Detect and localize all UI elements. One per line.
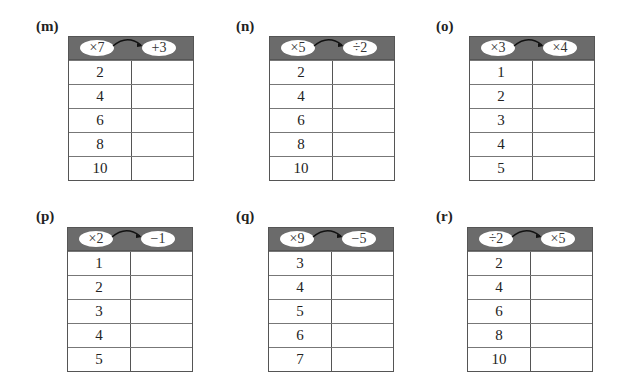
input-cell: 10: [69, 157, 132, 180]
output-cell[interactable]: [131, 300, 192, 323]
function-machine-table: ×9 −5 34567: [268, 227, 394, 372]
output-cell[interactable]: [131, 276, 192, 299]
table-row: 10: [69, 156, 193, 180]
output-cell[interactable]: [132, 61, 193, 84]
table-header: ×7 +3: [69, 37, 193, 60]
input-cell: 8: [69, 133, 132, 156]
operation-2: ×5: [541, 231, 575, 247]
arrow-icon: [510, 229, 544, 239]
input-cell: 3: [68, 300, 131, 323]
output-cell[interactable]: [531, 348, 592, 371]
table-row: 4: [270, 84, 394, 108]
output-cell[interactable]: [533, 109, 594, 132]
table-header: ×5 ÷2: [270, 37, 394, 60]
table-row: 5: [68, 347, 192, 371]
output-cell[interactable]: [132, 133, 193, 156]
output-cell[interactable]: [132, 157, 193, 180]
input-cell: 10: [270, 157, 333, 180]
table-row: 4: [468, 275, 592, 299]
output-cell[interactable]: [131, 348, 192, 371]
table-header: ×3 ×4: [470, 37, 594, 60]
input-cell: 4: [270, 85, 333, 108]
input-cell: 2: [270, 61, 333, 84]
output-cell[interactable]: [531, 324, 592, 347]
input-cell: 4: [470, 133, 533, 156]
input-cell: 3: [470, 109, 533, 132]
output-cell[interactable]: [132, 85, 193, 108]
operation-1: ×5: [281, 40, 315, 56]
output-cell[interactable]: [332, 276, 393, 299]
table-row: 5: [470, 156, 594, 180]
output-cell[interactable]: [332, 324, 393, 347]
table-row: 5: [269, 299, 393, 323]
operation-1: ×3: [481, 40, 515, 56]
input-cell: 2: [470, 85, 533, 108]
output-cell[interactable]: [132, 109, 193, 132]
output-cell[interactable]: [533, 61, 594, 84]
output-cell[interactable]: [332, 252, 393, 275]
input-cell: 5: [269, 300, 332, 323]
function-machine-table: ÷2 ×5 246810: [467, 227, 593, 372]
table-row: 3: [68, 299, 192, 323]
table-row: 8: [270, 132, 394, 156]
output-cell[interactable]: [131, 252, 192, 275]
input-cell: 10: [468, 348, 531, 371]
input-cell: 8: [270, 133, 333, 156]
arrow-icon: [111, 38, 145, 48]
output-cell[interactable]: [533, 133, 594, 156]
output-cell[interactable]: [333, 61, 394, 84]
input-cell: 2: [68, 276, 131, 299]
input-cell: 3: [269, 252, 332, 275]
table-row: 4: [69, 84, 193, 108]
table-row: 7: [269, 347, 393, 371]
output-cell[interactable]: [333, 109, 394, 132]
table-row: 10: [270, 156, 394, 180]
output-cell[interactable]: [531, 300, 592, 323]
arrow-icon: [512, 38, 546, 48]
table-row: 2: [468, 251, 592, 275]
table-row: 3: [269, 251, 393, 275]
input-cell: 6: [270, 109, 333, 132]
table-row: 1: [470, 60, 594, 84]
table-row: 4: [68, 323, 192, 347]
table-row: 2: [270, 60, 394, 84]
output-cell[interactable]: [332, 348, 393, 371]
arrow-icon: [312, 38, 346, 48]
output-cell[interactable]: [332, 300, 393, 323]
input-cell: 8: [468, 324, 531, 347]
output-cell[interactable]: [533, 157, 594, 180]
problem-label: (q): [236, 208, 254, 225]
operation-2: ÷2: [343, 40, 377, 56]
table-row: 4: [269, 275, 393, 299]
arrow-icon: [110, 229, 144, 239]
output-cell[interactable]: [531, 252, 592, 275]
table-header: ÷2 ×5: [468, 228, 592, 251]
table-row: 3: [470, 108, 594, 132]
input-cell: 7: [269, 348, 332, 371]
input-cell: 4: [68, 324, 131, 347]
output-cell[interactable]: [131, 324, 192, 347]
problem-label: (o): [436, 18, 454, 35]
function-machine-table: ×5 ÷2 246810: [269, 36, 395, 181]
problem-label: (p): [36, 208, 54, 225]
table-row: 2: [68, 275, 192, 299]
output-cell[interactable]: [333, 85, 394, 108]
output-cell[interactable]: [333, 133, 394, 156]
input-cell: 4: [269, 276, 332, 299]
output-cell[interactable]: [533, 85, 594, 108]
output-cell[interactable]: [333, 157, 394, 180]
problem-label: (r): [436, 208, 453, 225]
table-row: 8: [468, 323, 592, 347]
input-cell: 5: [470, 157, 533, 180]
table-header: ×9 −5: [269, 228, 393, 251]
function-machine-table: ×2 −1 12345: [67, 227, 193, 372]
input-cell: 6: [269, 324, 332, 347]
table-row: 6: [468, 299, 592, 323]
input-cell: 2: [69, 61, 132, 84]
output-cell[interactable]: [531, 276, 592, 299]
input-cell: 5: [68, 348, 131, 371]
problem-label: (m): [36, 18, 59, 35]
operation-2: −5: [342, 231, 376, 247]
input-cell: 2: [468, 252, 531, 275]
table-row: 2: [470, 84, 594, 108]
